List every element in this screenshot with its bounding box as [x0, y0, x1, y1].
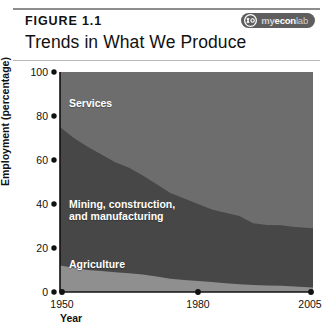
y-tick-label-40: 40: [22, 198, 48, 210]
x-axis-title: Year: [60, 312, 82, 324]
area-label-agriculture: Agriculture: [69, 258, 125, 271]
area-label-services: Services: [69, 97, 112, 110]
header-top-rule: [13, 8, 320, 10]
x-tick-label-1980: 1980: [178, 298, 218, 310]
chart-canvas: [0, 60, 333, 333]
badge-text-econ: econ: [275, 15, 296, 26]
badge-text-lab: lab: [296, 15, 308, 26]
area-label-mining-line2: and manufacturing: [69, 210, 164, 223]
stacked-area-chart: Employment (percentage) 100 80 60 40 20 …: [0, 60, 333, 333]
figure-title: Trends in What We Produce: [25, 32, 246, 53]
x-tick-label-2005: 2005: [290, 298, 330, 310]
y-tick-label-80: 80: [22, 110, 48, 122]
y-axis-title: Employment (percentage): [0, 57, 11, 186]
y-tick-label-20: 20: [22, 242, 48, 254]
myeconlab-wordmark: myeconlab: [261, 16, 308, 26]
myeconlab-logo-icon: [244, 14, 257, 27]
myeconlab-badge[interactable]: myeconlab: [241, 13, 315, 28]
figure-number-label: FIGURE 1.1: [25, 14, 102, 28]
figure-container: FIGURE 1.1 Trends in What We Produce mye…: [0, 0, 333, 333]
y-tick-label-0: 0: [22, 286, 48, 298]
area-label-mining-line1: Mining, construction,: [69, 198, 175, 211]
y-tick-label-100: 100: [22, 66, 48, 78]
badge-text-my: my: [261, 15, 274, 26]
y-axis-ticks: [51, 69, 56, 294]
y-tick-label-60: 60: [22, 154, 48, 166]
x-tick-label-1950: 1950: [42, 298, 82, 310]
